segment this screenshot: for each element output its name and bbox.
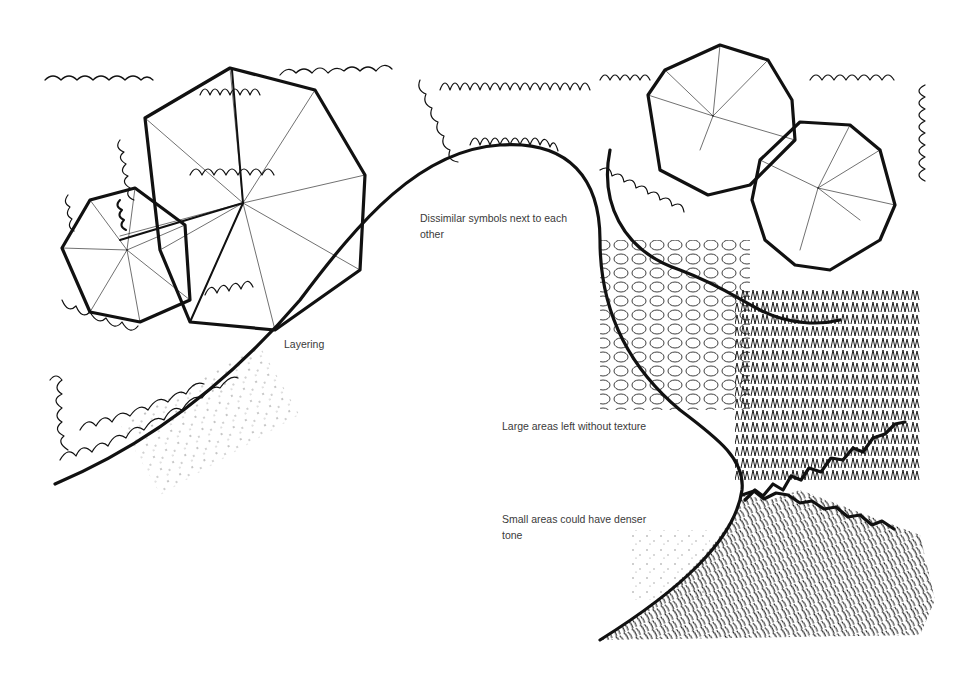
annotation-layering: Layering: [284, 336, 324, 352]
annotation-dissimilar-symbols: Dissimilar symbols next to each other: [420, 210, 567, 242]
landscape-plan-drawing: [0, 0, 967, 691]
spiky-grass-mass: [735, 290, 920, 500]
annotation-large-areas: Large areas left without texture: [502, 418, 646, 434]
shrub-mass-top-center: [419, 80, 590, 162]
annotation-small-areas-line2: tone: [502, 527, 646, 543]
twin-round-trees: [600, 45, 925, 270]
small-canopy-tree: [62, 188, 243, 330]
annotation-dissimilar-line1: Dissimilar symbols next to each: [420, 210, 567, 226]
large-canopy-tree: [118, 68, 365, 330]
annotation-dissimilar-line2: other: [420, 226, 567, 242]
annotation-small-areas: Small areas could have denser tone: [502, 511, 646, 543]
scallop-outline-topleft: [45, 65, 392, 80]
annotation-small-areas-line1: Small areas could have denser: [502, 511, 646, 527]
